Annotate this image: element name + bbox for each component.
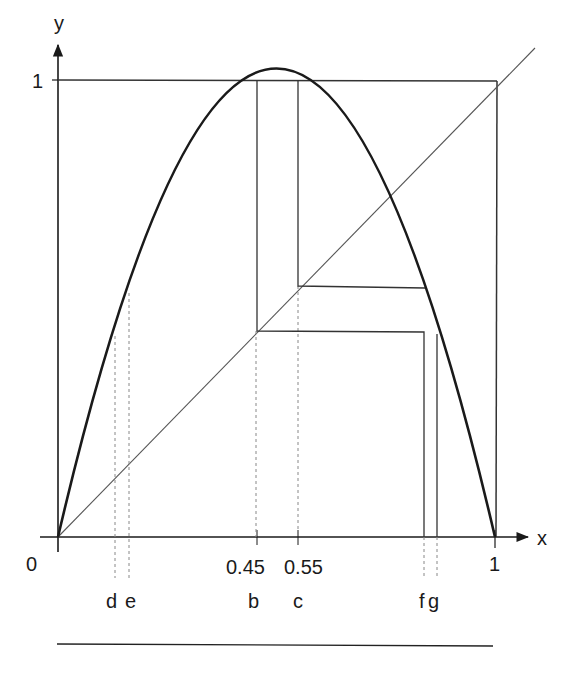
origin-label: 0 [26,553,37,575]
logistic-map-diagram: y x 1 0 1 0.45 0.55 d e b c f g [0,0,576,675]
dotted-guides [115,286,437,578]
line-x-equals-one [496,81,497,537]
b-value-label: 0.45 [226,556,265,578]
x-axis-label: x [537,527,547,549]
parabola-curve [58,69,495,538]
point-label-d: d [106,590,117,612]
y-one-label: 1 [32,70,43,92]
cobweb-lines [257,80,437,537]
c-value-label: 0.55 [284,556,323,578]
point-label-e: e [125,590,136,612]
diagonal-line [58,48,535,537]
bottom-rule [57,644,493,646]
point-label-f: f [419,590,425,612]
line-y-equals-one [58,80,497,81]
y-axis-label: y [54,12,64,34]
point-label-g: g [428,590,439,612]
x-one-label: 1 [489,553,500,575]
point-label-c: c [293,590,303,612]
point-label-b: b [248,590,259,612]
